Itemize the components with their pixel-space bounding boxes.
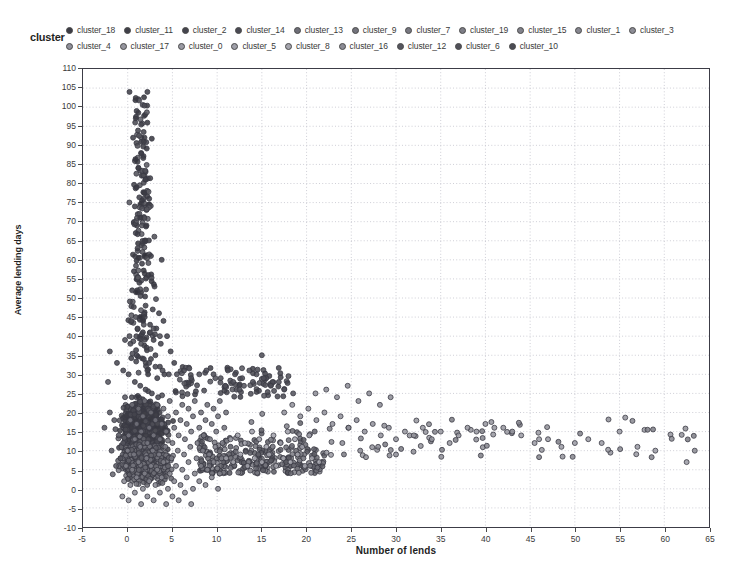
plot-area <box>82 68 710 528</box>
y-tick-label: 70 <box>50 216 76 226</box>
legend-item-label: cluster_9 <box>363 25 397 35</box>
x-tick-label: 25 <box>336 534 366 544</box>
legend-item-label: cluster_12 <box>408 41 446 51</box>
legend-item-label: cluster_16 <box>350 41 388 51</box>
y-tick-mark <box>78 260 82 261</box>
legend-item-cluster_11[interactable]: cluster_11 <box>124 25 173 35</box>
scatter-plot-figure: cluster cluster_18cluster_11cluster_2clu… <box>0 0 745 582</box>
x-tick-label: 45 <box>516 534 546 544</box>
y-tick-label: 10 <box>50 446 76 456</box>
y-tick-mark <box>78 183 82 184</box>
y-tick-mark <box>78 413 82 414</box>
legend-marker-icon <box>575 27 582 34</box>
y-tick-mark <box>78 202 82 203</box>
y-tick-label: 90 <box>50 140 76 150</box>
x-tick-mark <box>127 528 128 532</box>
legend-item-cluster_12[interactable]: cluster_12 <box>397 41 446 51</box>
x-tick-label: 40 <box>471 534 501 544</box>
legend-item-label: cluster_0 <box>189 41 223 51</box>
x-tick-mark <box>172 528 173 532</box>
x-tick-label: 5 <box>157 534 187 544</box>
y-tick-label: 95 <box>50 121 76 131</box>
legend-item-cluster_10[interactable]: cluster_10 <box>509 41 558 51</box>
y-tick-label: 80 <box>50 178 76 188</box>
y-tick-label: 35 <box>50 351 76 361</box>
legend-row: cluster_4cluster_17cluster_0cluster_5clu… <box>66 38 736 54</box>
legend-item-cluster_13[interactable]: cluster_13 <box>294 25 343 35</box>
legend-item-label: cluster_8 <box>296 41 330 51</box>
y-tick-mark <box>78 356 82 357</box>
y-tick-mark <box>78 126 82 127</box>
x-tick-mark <box>575 528 576 532</box>
legend-marker-icon <box>182 27 189 34</box>
legend-item-cluster_14[interactable]: cluster_14 <box>235 25 284 35</box>
legend-marker-icon <box>124 27 131 34</box>
legend-item-label: cluster_17 <box>131 41 169 51</box>
legend-item-label: cluster_7 <box>416 25 450 35</box>
x-tick-label: 55 <box>605 534 635 544</box>
legend-item-cluster_5[interactable]: cluster_5 <box>231 41 276 51</box>
legend-marker-icon <box>66 43 73 50</box>
legend-item-cluster_0[interactable]: cluster_0 <box>178 41 223 51</box>
x-tick-mark <box>82 528 83 532</box>
y-tick-mark <box>78 241 82 242</box>
legend-marker-icon <box>120 43 127 50</box>
x-tick-mark <box>217 528 218 532</box>
legend-item-cluster_15[interactable]: cluster_15 <box>517 25 566 35</box>
y-tick-label: 0 <box>50 485 76 495</box>
legend-item-label: cluster_3 <box>640 25 674 35</box>
legend-item-label: cluster_1 <box>586 25 620 35</box>
y-tick-mark <box>78 164 82 165</box>
legend-item-label: cluster_15 <box>528 25 566 35</box>
legend-item-cluster_7[interactable]: cluster_7 <box>405 25 450 35</box>
legend-item-label: cluster_10 <box>520 41 558 51</box>
legend-marker-icon <box>459 27 466 34</box>
legend-item-cluster_17[interactable]: cluster_17 <box>120 41 169 51</box>
legend-item-cluster_2[interactable]: cluster_2 <box>182 25 227 35</box>
legend-marker-icon <box>509 43 516 50</box>
legend-item-label: cluster_4 <box>77 41 111 51</box>
legend-marker-icon <box>352 27 359 34</box>
legend-item-cluster_8[interactable]: cluster_8 <box>285 41 330 51</box>
y-tick-label: 15 <box>50 427 76 437</box>
legend-item-cluster_19[interactable]: cluster_19 <box>459 25 508 35</box>
y-tick-mark <box>78 298 82 299</box>
legend-marker-icon <box>178 43 185 50</box>
legend-item-cluster_16[interactable]: cluster_16 <box>339 41 388 51</box>
data-points-layer <box>83 69 709 527</box>
legend-item-cluster_9[interactable]: cluster_9 <box>352 25 397 35</box>
legend-item-label: cluster_13 <box>305 25 343 35</box>
x-tick-label: 65 <box>695 534 725 544</box>
legend-item-cluster_18[interactable]: cluster_18 <box>66 25 115 35</box>
x-tick-mark <box>441 528 442 532</box>
y-tick-label: 20 <box>50 408 76 418</box>
legend-item-cluster_1[interactable]: cluster_1 <box>575 25 620 35</box>
legend-item-label: cluster_18 <box>77 25 115 35</box>
x-tick-label: 50 <box>560 534 590 544</box>
y-tick-mark <box>78 221 82 222</box>
y-tick-mark <box>78 375 82 376</box>
y-tick-mark <box>78 279 82 280</box>
legend-title: cluster <box>30 31 65 43</box>
x-axis-title: Number of lends <box>82 545 710 556</box>
x-tick-label: -5 <box>67 534 97 544</box>
legend-item-cluster_3[interactable]: cluster_3 <box>629 25 674 35</box>
x-tick-label: 35 <box>426 534 456 544</box>
y-tick-mark <box>78 106 82 107</box>
y-tick-mark <box>78 471 82 472</box>
legend-item-cluster_6[interactable]: cluster_6 <box>455 41 500 51</box>
x-tick-label: 30 <box>381 534 411 544</box>
y-tick-label: 75 <box>50 197 76 207</box>
y-tick-label: 45 <box>50 312 76 322</box>
y-tick-label: 25 <box>50 389 76 399</box>
legend-item-label: cluster_11 <box>135 25 173 35</box>
x-tick-mark <box>620 528 621 532</box>
legend-row: cluster_18cluster_11cluster_2cluster_14c… <box>66 22 736 38</box>
y-axis-title: Average lending days <box>13 190 23 350</box>
y-tick-label: 65 <box>50 236 76 246</box>
y-tick-label: 5 <box>50 466 76 476</box>
legend-item-cluster_4[interactable]: cluster_4 <box>66 41 111 51</box>
legend-marker-icon <box>629 27 636 34</box>
y-tick-label: 55 <box>50 274 76 284</box>
legend-marker-icon <box>66 27 73 34</box>
